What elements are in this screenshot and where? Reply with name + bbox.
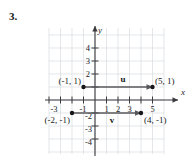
- y-tick-label-neg4: -4: [85, 137, 93, 147]
- x-axis-label: x: [180, 87, 185, 97]
- vector-v-start-point: [70, 111, 74, 115]
- y-axis-arrowhead: [92, 26, 97, 32]
- vector-v-end-point: [139, 111, 143, 115]
- vector-u-label: u: [120, 74, 125, 84]
- vector-u-start-point: [81, 85, 85, 89]
- y-axis-label: y: [97, 25, 102, 35]
- y-tick-label-neg3: -3: [85, 124, 92, 134]
- problem-number: 3.: [9, 10, 17, 22]
- vector-v-label: v: [110, 115, 115, 125]
- point-label-neg1-1: (-1, 1): [59, 76, 82, 86]
- x-tick-label-5: 5: [150, 104, 154, 114]
- point-label-4-neg1: (4, -1): [144, 115, 167, 125]
- x-tick-label-neg3: -3: [50, 104, 57, 114]
- graph-svg: x y -3 -1 1 2 3 5 4 3 2 -2 -3 -4 u: [40, 24, 190, 158]
- grid-lines: [49, 28, 164, 154]
- x-axis-arrowhead: [173, 97, 179, 102]
- y-tick-label-2: 2: [86, 69, 90, 79]
- worksheet-page: 3.: [0, 0, 195, 164]
- y-tick-label-3: 3: [86, 56, 90, 66]
- point-label-5-1: (5, 1): [155, 76, 175, 86]
- point-label-neg2-neg1: (-2, -1): [45, 115, 71, 125]
- axes: [45, 26, 178, 156]
- coordinate-graph: x y -3 -1 1 2 3 5 4 3 2 -2 -3 -4 u: [40, 24, 190, 158]
